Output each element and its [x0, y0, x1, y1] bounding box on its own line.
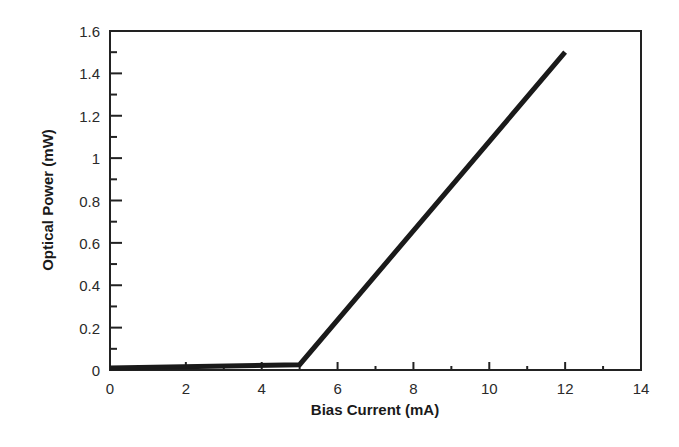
axis-ticks — [110, 31, 641, 370]
y-tick-label: 0 — [92, 362, 100, 379]
y-tick-label: 0.8 — [79, 193, 100, 210]
axis-tick-labels: 0246810121400.20.40.60.811.21.41.6 — [79, 23, 649, 397]
x-tick-label: 14 — [633, 380, 650, 397]
chart-canvas: 0246810121400.20.40.60.811.21.41.6 Bias … — [0, 0, 679, 447]
x-tick-label: 8 — [409, 380, 417, 397]
x-tick-label: 2 — [182, 380, 190, 397]
y-tick-label: 0.6 — [79, 235, 100, 252]
y-tick-label: 1.4 — [79, 65, 100, 82]
y-tick-label: 1.2 — [79, 108, 100, 125]
y-tick-label: 1.6 — [79, 23, 100, 40]
plot-frame — [110, 31, 641, 370]
x-axis-label: Bias Current (mA) — [311, 401, 439, 418]
y-axis-label: Optical Power (mW) — [39, 129, 56, 271]
y-tick-label: 0.2 — [79, 320, 100, 337]
x-tick-label: 10 — [481, 380, 498, 397]
x-tick-label: 12 — [557, 380, 574, 397]
y-tick-label: 1 — [92, 150, 100, 167]
y-tick-label: 0.4 — [79, 277, 100, 294]
x-tick-label: 6 — [333, 380, 341, 397]
series-line — [110, 52, 565, 368]
x-tick-label: 0 — [106, 380, 114, 397]
x-tick-label: 4 — [258, 380, 266, 397]
